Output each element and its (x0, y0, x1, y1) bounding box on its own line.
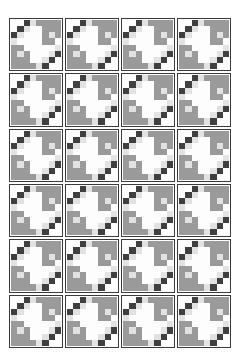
quilt-tile-cells (67, 186, 117, 235)
quilt-tile (65, 184, 119, 237)
quilt-tile-cells (67, 20, 117, 69)
quilt-tile (177, 295, 231, 348)
quilt-tile (121, 295, 175, 348)
quilt-tile-cells (179, 186, 229, 235)
quilt-tile-cells (179, 297, 229, 346)
quilt-tile-cells (123, 131, 173, 180)
quilt-cell-white (167, 229, 173, 235)
quilt-tile (9, 239, 63, 292)
quilt-tile-cells (11, 241, 61, 290)
quilt-cell-white (55, 284, 61, 290)
quilt-tile-cells (67, 75, 117, 124)
quilt-cell-white (167, 63, 173, 69)
quilt-cell-white (223, 174, 229, 180)
quilt-cell-white (55, 118, 61, 124)
quilt-tile-cells (123, 297, 173, 346)
quilt-cell-white (223, 284, 229, 290)
quilt-tile (177, 239, 231, 292)
quilt-tile (9, 18, 63, 71)
quilt-cell-white (223, 340, 229, 346)
quilt-tile-cells (67, 241, 117, 290)
quilt-tile-grid (9, 18, 231, 348)
quilt-tile-cells (11, 131, 61, 180)
quilt-tile (121, 73, 175, 126)
quilt-cell-white (167, 174, 173, 180)
quilt-tile (121, 129, 175, 182)
quilt-cell-white (111, 63, 117, 69)
quilt-tile (177, 18, 231, 71)
quilt-tile (65, 73, 119, 126)
quilt-cell-white (167, 284, 173, 290)
quilt-tile (9, 129, 63, 182)
quilt-cell-white (111, 118, 117, 124)
quilt-tile-cells (123, 241, 173, 290)
quilt-cell-white (167, 340, 173, 346)
quilt-cell-white (55, 340, 61, 346)
quilt-tile (121, 184, 175, 237)
quilt-cell-white (55, 174, 61, 180)
quilt-tile-cells (11, 186, 61, 235)
quilt-tile-cells (67, 297, 117, 346)
quilt-tile (177, 129, 231, 182)
quilt-tile (65, 129, 119, 182)
quilt-tile-cells (179, 131, 229, 180)
quilt-tile-cells (179, 75, 229, 124)
quilt-tile (121, 239, 175, 292)
quilt-tile-cells (123, 186, 173, 235)
quilt-tile-cells (11, 20, 61, 69)
quilt-tile (65, 239, 119, 292)
quilt-tile (65, 18, 119, 71)
quilt-tile (177, 184, 231, 237)
quilt-cell-white (111, 340, 117, 346)
quilt-cell-white (223, 63, 229, 69)
quilt-tile-cells (179, 241, 229, 290)
quilt-tile (121, 18, 175, 71)
quilt-cell-white (55, 229, 61, 235)
quilt-cell-white (55, 63, 61, 69)
quilt-tile-cells (11, 75, 61, 124)
quilt-tile-cells (11, 297, 61, 346)
quilt-cell-white (223, 229, 229, 235)
quilt-cell-white (111, 229, 117, 235)
quilt-tile (177, 73, 231, 126)
quilt-tile-cells (123, 75, 173, 124)
quilt-tile (9, 295, 63, 348)
quilt-cell-white (223, 118, 229, 124)
quilt-tile-cells (179, 20, 229, 69)
quilt-tile-cells (123, 20, 173, 69)
quilt-cell-white (111, 174, 117, 180)
quilt-tile-cells (67, 131, 117, 180)
quilt-tile (65, 295, 119, 348)
quilt-tile (9, 73, 63, 126)
pattern-sheet (0, 0, 240, 360)
quilt-tile (9, 184, 63, 237)
quilt-cell-white (167, 118, 173, 124)
quilt-cell-white (111, 284, 117, 290)
